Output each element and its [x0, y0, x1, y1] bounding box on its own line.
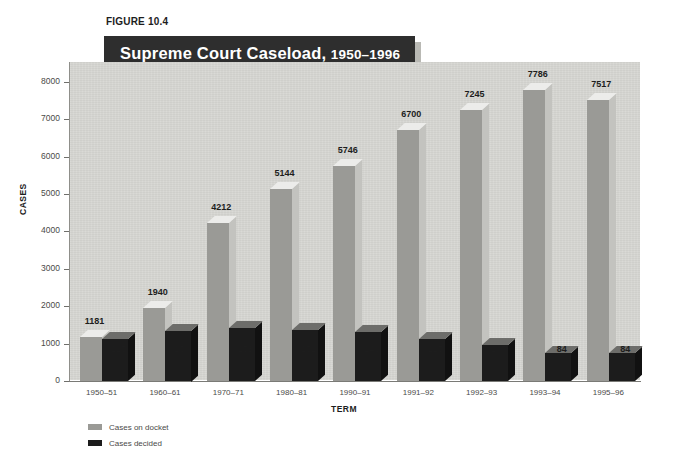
bar-value-label: 7786 — [517, 69, 558, 79]
y-tick-mark — [64, 306, 69, 307]
bar-value-label: 152 — [288, 344, 329, 354]
x-axis-tick-label: 1960–61 — [133, 388, 196, 397]
x-axis-tick-label: 1995–96 — [577, 388, 640, 397]
y-tick-label: 1000 — [41, 338, 60, 348]
bar-value-label: 7245 — [454, 89, 495, 99]
y-axis-tick: 5000 — [0, 194, 69, 195]
y-tick-label: 8000 — [41, 76, 60, 86]
bar-front-face — [292, 330, 318, 381]
x-axis-line — [69, 381, 641, 382]
bar-value-label: 1181 — [74, 316, 115, 326]
x-axis-tick-label: 1950–51 — [70, 388, 133, 397]
bar-value-label: 125 — [98, 344, 139, 354]
bar[interactable] — [609, 353, 635, 381]
y-axis-line — [69, 62, 70, 382]
bar-front-face — [587, 100, 609, 381]
chart-title-main: Supreme Court Caseload, — [120, 44, 326, 62]
legend-label: Cases decided — [109, 439, 162, 448]
bar-front-face — [207, 223, 229, 381]
chart-title: Supreme Court Caseload, 1950–1996 — [120, 44, 400, 63]
chart-legend: Cases on docketCases decided — [88, 420, 169, 452]
bar-value-label: 125 — [415, 344, 456, 354]
y-tick-label: 7000 — [41, 113, 60, 123]
bar-value-label: 5746 — [327, 145, 368, 155]
bar-front-face — [523, 90, 545, 381]
y-tick-label: 3000 — [41, 263, 60, 273]
y-axis-tick: 0 — [0, 381, 69, 382]
y-tick-mark — [64, 82, 69, 83]
bar[interactable] — [207, 223, 229, 381]
bar-value-label: 150 — [161, 344, 202, 354]
legend-item[interactable]: Cases on docket — [88, 420, 169, 434]
legend-swatch-docket — [88, 424, 102, 430]
y-tick-mark — [64, 381, 69, 382]
y-tick-mark — [64, 231, 69, 232]
bar-front-face — [165, 331, 191, 382]
bar-side-face — [128, 333, 135, 381]
x-axis-title: TERM — [0, 404, 688, 414]
figure-container: FIGURE 10.4 Supreme Court Caseload, 1950… — [0, 0, 688, 462]
y-tick-mark — [64, 194, 69, 195]
y-axis-tick: 2000 — [0, 306, 69, 307]
bar-value-label: 5144 — [264, 168, 305, 178]
bar-value-label: 84 — [541, 344, 582, 354]
bar-value-label: 84 — [605, 344, 646, 354]
bar[interactable] — [587, 100, 609, 381]
y-tick-mark — [64, 157, 69, 158]
bar-value-label: 1940 — [137, 287, 178, 297]
bar-side-face — [445, 333, 452, 381]
y-tick-mark — [64, 344, 69, 345]
y-tick-label: 0 — [55, 375, 60, 385]
bar[interactable] — [229, 328, 255, 381]
bar-front-face — [545, 353, 571, 381]
bar-side-face — [545, 83, 552, 381]
legend-swatch-decided — [88, 440, 102, 446]
bar-front-face — [609, 353, 635, 381]
x-axis-tick-label: 1993–94 — [513, 388, 576, 397]
y-tick-mark — [64, 269, 69, 270]
bar-value-label: 107 — [478, 344, 519, 354]
bar[interactable] — [523, 90, 545, 381]
bar-value-label: 4212 — [201, 202, 242, 212]
bar[interactable] — [355, 332, 381, 381]
bar[interactable] — [545, 353, 571, 381]
y-tick-mark — [64, 119, 69, 120]
x-axis-tick-label: 1990–91 — [323, 388, 386, 397]
y-tick-label: 2000 — [41, 300, 60, 310]
x-axis-tick-label: 1991–92 — [387, 388, 450, 397]
chart-title-years: 1950–1996 — [331, 47, 400, 62]
legend-item[interactable]: Cases decided — [88, 436, 169, 450]
y-tick-label: 5000 — [41, 188, 60, 198]
y-axis-tick: 8000 — [0, 82, 69, 83]
bar-side-face — [609, 93, 616, 381]
y-axis-tick: 6000 — [0, 157, 69, 158]
x-axis-tick-label: 1980–81 — [260, 388, 323, 397]
bar-front-face — [355, 332, 381, 381]
y-axis-title: CASES — [18, 183, 28, 215]
bar-value-label: 146 — [351, 344, 392, 354]
figure-number-label: FIGURE 10.4 — [106, 16, 168, 27]
legend-label: Cases on docket — [109, 423, 169, 432]
y-tick-label: 4000 — [41, 225, 60, 235]
bar-front-face — [229, 328, 255, 381]
x-axis-tick-label: 1992–93 — [450, 388, 513, 397]
bar-front-face — [460, 110, 482, 381]
bar-value-label: 7517 — [581, 79, 622, 89]
bar[interactable] — [165, 331, 191, 382]
bar[interactable] — [460, 110, 482, 381]
y-axis-tick: 3000 — [0, 269, 69, 270]
bar-value-label: 6700 — [391, 109, 432, 119]
y-axis-tick: 4000 — [0, 231, 69, 232]
y-axis-tick: 1000 — [0, 344, 69, 345]
y-tick-label: 6000 — [41, 151, 60, 161]
bar[interactable] — [292, 330, 318, 381]
y-axis-tick: 7000 — [0, 119, 69, 120]
bar-value-label: 158 — [225, 344, 266, 354]
x-axis-tick-label: 1970–71 — [197, 388, 260, 397]
